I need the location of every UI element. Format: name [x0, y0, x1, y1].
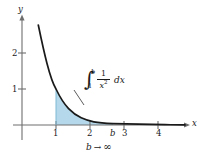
infinity-symbol: ∞ — [103, 142, 111, 152]
right-arrow-icon: → — [94, 143, 102, 152]
x-tick-label-2: 2 — [87, 129, 92, 138]
limit-annotation: b → ∞ — [86, 142, 112, 152]
integral-upper-limit: b — [91, 69, 95, 76]
integral-sign-group: ∫ b 1 — [84, 70, 95, 90]
y-axis-arrowhead — [19, 15, 24, 21]
x-tick-label-b: b — [110, 129, 115, 138]
integrand-fraction: 1 x2 — [97, 70, 110, 90]
fraction-numerator: 1 — [101, 70, 106, 78]
x-tick-label-3: 3 — [122, 129, 127, 138]
y-axis-label: y — [18, 5, 23, 14]
figure-container: y x 2 1 1 2 b 3 4 ∫ b 1 1 x2 dx b → ∞ — [0, 0, 202, 160]
integral-annotation: ∫ b 1 1 x2 dx — [84, 70, 125, 90]
x-tick-label-1: 1 — [53, 129, 58, 138]
limit-variable: b — [86, 143, 92, 152]
integral-leader-line — [74, 90, 84, 105]
integral-lower-limit: 1 — [88, 83, 92, 90]
x-tick-label-4: 4 — [156, 129, 161, 138]
fraction-denominator: x2 — [99, 80, 107, 90]
y-tick-label-1: 1 — [12, 85, 17, 94]
differential-dx: dx — [114, 76, 125, 85]
denominator-exponent: 2 — [104, 79, 108, 85]
y-tick-label-2: 2 — [12, 49, 17, 58]
x-axis-label: x — [192, 119, 197, 128]
